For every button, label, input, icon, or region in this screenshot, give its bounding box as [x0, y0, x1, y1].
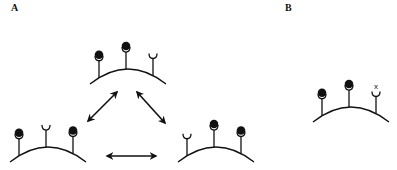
receptor-cup — [149, 53, 157, 58]
cell-bottom-right — [178, 120, 254, 162]
receptor-bound — [237, 126, 246, 153]
receptor-blocked: x — [372, 82, 380, 113]
receptor-empty — [149, 53, 157, 75]
ligand-ball — [237, 126, 246, 135]
ligand-ball — [95, 50, 104, 59]
receptor-bound — [69, 126, 78, 153]
receptor-empty — [183, 134, 191, 156]
blocked-marker: x — [374, 82, 378, 91]
cell-b-cell: x — [313, 80, 389, 122]
cell-top — [90, 42, 166, 84]
membrane-arc — [178, 147, 254, 162]
arrow-top-to-bottom-right — [137, 92, 165, 123]
receptor-bound — [345, 80, 354, 107]
ligand-ball — [15, 128, 24, 137]
ligand-ball — [122, 42, 131, 51]
ligand-ball — [318, 88, 327, 97]
receptor-bound — [210, 120, 219, 147]
membrane-arc — [90, 69, 166, 84]
ligand-ball — [210, 120, 219, 129]
receptor-empty — [42, 125, 50, 147]
membrane-arc — [313, 107, 389, 122]
receptor-bound — [318, 88, 327, 115]
receptor-bound — [15, 128, 24, 155]
ligand-ball — [69, 126, 78, 135]
receptor-cup — [372, 91, 380, 96]
receptor-cup — [42, 125, 50, 130]
cell-bottom-left — [10, 125, 86, 162]
receptor-bound — [122, 42, 131, 69]
receptor-bound — [95, 50, 104, 77]
ligand-ball — [345, 80, 354, 89]
arrow-bottom-left-to-top — [88, 92, 117, 121]
membrane-arc — [10, 147, 86, 162]
receptor-diagram: x — [0, 0, 397, 170]
receptor-cup — [183, 134, 191, 139]
